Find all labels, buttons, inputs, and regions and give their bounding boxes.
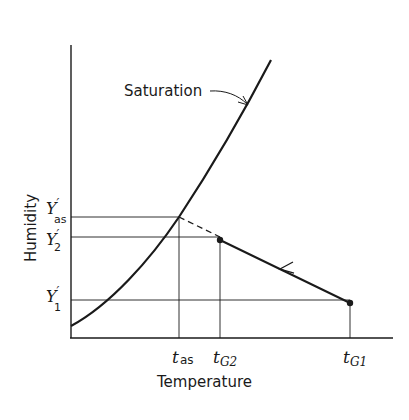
svg-text:t: t	[172, 347, 179, 367]
y-tick-y-2: Y′ 2	[46, 228, 61, 254]
dashed-extrapolation	[179, 217, 220, 237]
point-state-1	[347, 300, 353, 306]
y-axis-label: Humidity	[22, 194, 40, 262]
process-line	[220, 240, 350, 303]
x-tick-t-as: t as	[172, 347, 194, 367]
svg-text:t: t	[343, 347, 350, 367]
saturation-pointer	[210, 91, 247, 104]
svg-text:1: 1	[54, 301, 61, 314]
svg-text:G1: G1	[350, 355, 367, 369]
svg-text:as: as	[180, 353, 194, 367]
y-tick-y-as: Y′ as	[46, 197, 67, 226]
x-tick-t-g1: t G1	[343, 347, 367, 369]
point-state-2	[217, 237, 223, 243]
x-tick-t-g2: t G2	[213, 347, 237, 369]
process-direction-arrow-icon	[280, 262, 294, 273]
svg-text:as: as	[54, 213, 67, 226]
x-axis-label: Temperature	[156, 373, 252, 391]
svg-text:G2: G2	[220, 355, 237, 369]
y-tick-y-1: Y′ 1	[46, 285, 61, 314]
saturation-label: Saturation	[124, 82, 202, 100]
adiabatic-saturation-diagram: Saturation Humidity Y′ as Y′ 2 Y′ 1 t as…	[0, 0, 409, 420]
svg-text:2: 2	[54, 241, 61, 254]
svg-text:t: t	[213, 347, 220, 367]
